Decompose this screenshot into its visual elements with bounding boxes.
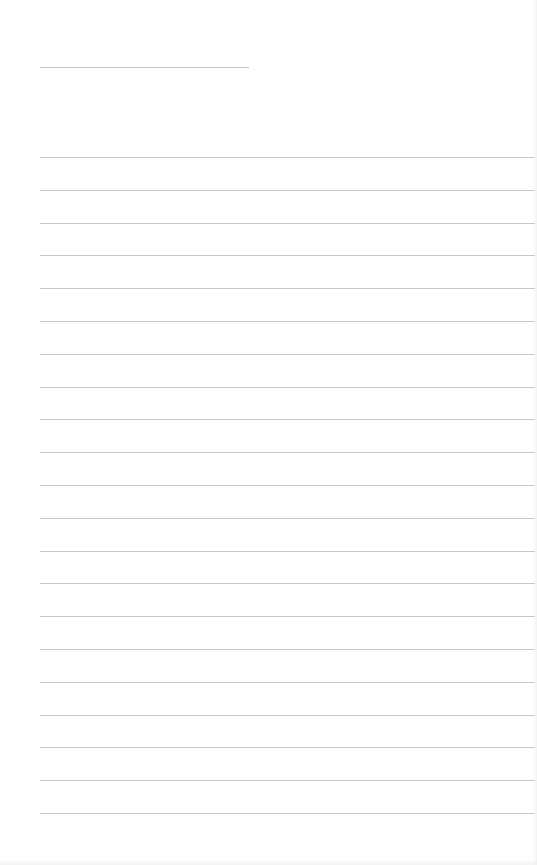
ruled-line bbox=[40, 387, 535, 388]
ruled-line bbox=[40, 682, 535, 683]
ruled-line bbox=[40, 747, 535, 748]
ruled-line bbox=[40, 321, 535, 322]
ruled-line bbox=[40, 288, 535, 289]
ruled-line bbox=[40, 419, 535, 420]
ruled-line bbox=[40, 157, 535, 158]
ruled-line bbox=[40, 452, 535, 453]
ruled-line bbox=[40, 223, 535, 224]
ruled-line bbox=[40, 190, 535, 191]
ruled-line bbox=[40, 780, 535, 781]
ruled-line bbox=[40, 354, 535, 355]
ruled-line bbox=[40, 616, 535, 617]
ruled-line bbox=[40, 715, 535, 716]
page-bottom-shadow bbox=[0, 859, 537, 865]
ruled-line bbox=[40, 485, 535, 486]
header-name-line bbox=[40, 67, 249, 68]
ruled-line bbox=[40, 649, 535, 650]
ruled-line bbox=[40, 518, 535, 519]
page-edge-shadow bbox=[533, 0, 537, 865]
ruled-line bbox=[40, 583, 535, 584]
ruled-line bbox=[40, 255, 535, 256]
ruled-line bbox=[40, 813, 535, 814]
notepaper bbox=[0, 0, 537, 865]
ruled-line bbox=[40, 551, 535, 552]
